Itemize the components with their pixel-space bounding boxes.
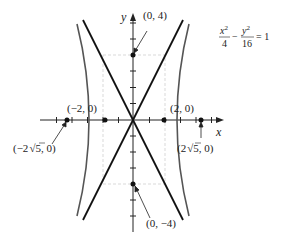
svg-text:y2: y2	[241, 24, 250, 36]
label-vertex-right: (2, 0)	[170, 102, 194, 115]
y-axis-label: y	[120, 10, 127, 24]
hyperbola-diagram: x y	[0, 0, 281, 241]
svg-text:(−2√5, 0): (−2√5, 0)	[13, 142, 56, 155]
point-vertex-left	[103, 118, 108, 123]
label-focus-right: (2√5, 0)	[177, 142, 214, 155]
point-focus-left	[65, 118, 70, 123]
svg-text:(2√5, 0): (2√5, 0)	[177, 142, 214, 155]
label-vertex-left: (−2, 0)	[67, 102, 97, 115]
leader-lines	[52, 31, 203, 218]
svg-text:4: 4	[222, 38, 227, 49]
point-vertex-right	[162, 118, 167, 123]
svg-text:x2: x2	[219, 24, 228, 36]
equation: x2 4 − y2 16 = 1	[219, 24, 269, 49]
label-bottom: (0, −4)	[146, 217, 176, 230]
svg-text:−: −	[232, 31, 238, 42]
label-top: (0, 4)	[143, 9, 167, 22]
svg-text:= 1: = 1	[256, 31, 269, 42]
label-focus-left: (−2√5, 0)	[13, 142, 56, 155]
x-axis-label: x	[215, 125, 222, 139]
svg-text:16: 16	[242, 38, 252, 49]
point-top	[131, 53, 136, 58]
